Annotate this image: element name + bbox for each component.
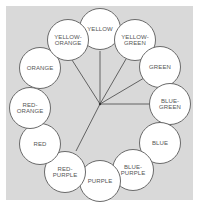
spoke-yellow-green bbox=[100, 59, 126, 104]
spoke-green bbox=[100, 78, 144, 104]
color-circle-green: GREEN bbox=[139, 46, 181, 88]
spoke-red-purple bbox=[76, 104, 100, 151]
label: BLUE- PURPLE bbox=[121, 164, 146, 177]
label: YELLOW- GREEN bbox=[121, 34, 149, 47]
center-point bbox=[99, 103, 101, 105]
label: RED- PURPLE bbox=[53, 166, 78, 179]
label: GREEN bbox=[149, 64, 171, 71]
label: BLUE bbox=[152, 140, 168, 147]
label: BLUE- GREEN bbox=[159, 98, 181, 111]
color-circle-blue-green: BLUE- GREEN bbox=[149, 83, 191, 125]
label: YELLOW- ORANGE bbox=[54, 34, 82, 47]
spoke-yellow-orange bbox=[72, 60, 100, 104]
color-circle-red: RED bbox=[19, 123, 61, 165]
label: YELLOW bbox=[87, 26, 113, 33]
color-circle-red-orange: RED- ORANGE bbox=[9, 87, 51, 129]
label: RED- ORANGE bbox=[17, 102, 44, 115]
color-circle-yellow-orange: YELLOW- ORANGE bbox=[47, 19, 89, 61]
label: RED bbox=[34, 141, 47, 148]
label: ORANGE bbox=[27, 65, 54, 72]
label: PURPLE bbox=[88, 178, 113, 185]
